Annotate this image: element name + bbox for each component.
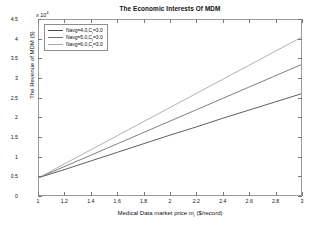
y-tick-label: 2 xyxy=(0,114,18,120)
legend-label-tail: =3.0 xyxy=(93,27,103,33)
x-tick-mark xyxy=(302,192,303,196)
legend-label-main: Navg=6.0,C xyxy=(66,41,92,47)
x-axis-label: Medical Data market price mi ($/record) xyxy=(38,210,302,218)
legend-label-tail: =3.0 xyxy=(93,41,103,47)
x-tick-mark xyxy=(91,192,92,196)
y-tick-label: 0 xyxy=(0,193,18,199)
legend-label-tail: =3.0 xyxy=(93,34,103,40)
y-tick-mark xyxy=(38,58,42,59)
legend-item[interactable]: Navg=6.0,Ci=3.0 xyxy=(48,41,103,48)
x-tick-mark xyxy=(276,19,277,23)
y-tick-mark xyxy=(38,39,42,40)
x-tick-mark xyxy=(276,192,277,196)
x-tick-mark xyxy=(170,192,171,196)
y-tick-mark xyxy=(38,78,42,79)
x-tick-label: 2 xyxy=(157,198,183,204)
y-axis-exponent-prefix: x 10 xyxy=(36,12,46,18)
y-axis-exponent: x 104 xyxy=(36,10,49,18)
x-tick-label: 1.8 xyxy=(131,198,157,204)
series-line-2 xyxy=(39,38,301,178)
x-tick-label: 3 xyxy=(289,198,315,204)
x-tick-mark xyxy=(196,192,197,196)
legend-line-swatch xyxy=(48,30,63,31)
legend-label-main: Navg=5.0,C xyxy=(66,34,92,40)
x-tick-mark xyxy=(249,192,250,196)
y-tick-mark xyxy=(298,176,302,177)
y-tick-mark xyxy=(38,196,42,197)
legend: Navg=4.0,Ci=3.0Navg=5.0,Ci=3.0Navg=6.0,C… xyxy=(44,24,108,51)
series-line-1 xyxy=(39,65,301,178)
x-axis-label-main: Medical Data market price m xyxy=(117,210,193,216)
y-axis-exponent-power: 4 xyxy=(46,10,48,15)
x-tick-label: 2.2 xyxy=(183,198,209,204)
x-tick-label: 1.6 xyxy=(104,198,130,204)
y-tick-label: 2.5 xyxy=(0,95,18,101)
chart-title: The Economic Interests Of MDM xyxy=(38,5,302,12)
y-tick-mark xyxy=(298,196,302,197)
x-tick-mark xyxy=(223,192,224,196)
x-axis-label-tail: ($/record) xyxy=(195,210,223,216)
y-tick-label: 4 xyxy=(0,36,18,42)
y-tick-label: 3.5 xyxy=(0,55,18,61)
x-tick-mark xyxy=(38,19,39,23)
x-tick-mark xyxy=(249,19,250,23)
x-tick-label: 2.8 xyxy=(263,198,289,204)
x-tick-mark xyxy=(117,19,118,23)
y-tick-mark xyxy=(298,78,302,79)
y-tick-mark xyxy=(38,117,42,118)
x-tick-mark xyxy=(64,19,65,23)
x-tick-mark xyxy=(91,19,92,23)
x-tick-mark xyxy=(64,192,65,196)
y-tick-label: 1.5 xyxy=(0,134,18,140)
y-tick-mark xyxy=(298,157,302,158)
legend-item-label: Navg=6.0,Ci=3.0 xyxy=(66,41,103,49)
x-tick-mark xyxy=(223,19,224,23)
y-tick-mark xyxy=(38,157,42,158)
x-tick-mark xyxy=(144,19,145,23)
x-tick-mark xyxy=(170,19,171,23)
legend-label-main: Navg=4.0,C xyxy=(66,27,92,33)
series-line-0 xyxy=(39,94,301,178)
y-tick-mark xyxy=(38,137,42,138)
legend-line-swatch xyxy=(48,44,63,45)
x-tick-mark xyxy=(302,19,303,23)
legend-line-swatch xyxy=(48,37,63,38)
x-tick-label: 2.4 xyxy=(210,198,236,204)
y-axis-label: The Revenue of MDM ($) xyxy=(29,0,35,145)
y-tick-mark xyxy=(298,39,302,40)
y-tick-mark xyxy=(298,98,302,99)
x-tick-label: 1.2 xyxy=(51,198,77,204)
y-tick-label: 0.5 xyxy=(0,173,18,179)
y-tick-label: 1 xyxy=(0,154,18,160)
y-tick-label: 3 xyxy=(0,75,18,81)
x-tick-label: 1.4 xyxy=(78,198,104,204)
x-tick-label: 2.6 xyxy=(236,198,262,204)
figure-canvas: The Economic Interests Of MDM x 104 00.5… xyxy=(0,0,322,229)
x-tick-mark xyxy=(144,192,145,196)
y-tick-mark xyxy=(298,137,302,138)
y-tick-mark xyxy=(38,98,42,99)
x-tick-mark xyxy=(196,19,197,23)
x-tick-mark xyxy=(38,192,39,196)
y-tick-mark xyxy=(298,117,302,118)
y-tick-mark xyxy=(38,176,42,177)
y-tick-label: 4.5 xyxy=(0,16,18,22)
x-tick-mark xyxy=(117,192,118,196)
y-tick-mark xyxy=(298,58,302,59)
x-tick-label: 1 xyxy=(25,198,51,204)
